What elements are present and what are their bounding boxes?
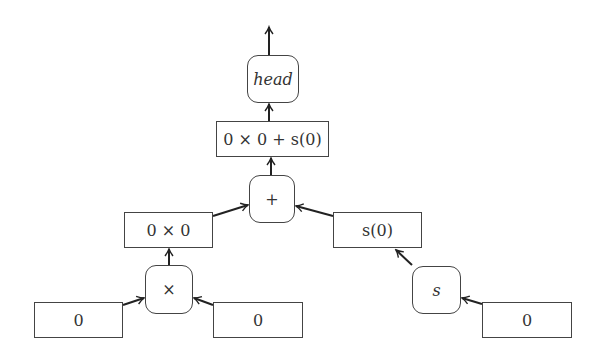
edge-prod-plus: [213, 205, 248, 216]
edge-s-succ: [396, 250, 412, 265]
node-zero-right: 0: [482, 302, 572, 338]
node-plus-label: +: [265, 190, 278, 209]
node-zero-middle-label: 0: [253, 311, 263, 330]
node-head: head: [247, 55, 299, 103]
node-zero-middle: 0: [213, 302, 303, 338]
node-product-expression: 0 × 0: [124, 212, 213, 248]
node-s-label: s: [432, 281, 440, 300]
node-successor-expression: s(0): [333, 212, 422, 248]
node-zero-left-label: 0: [73, 311, 83, 330]
node-zero-right-label: 0: [522, 311, 532, 330]
edge-zeroright-s: [462, 298, 482, 304]
node-head-label: head: [253, 70, 293, 89]
edge-zeromid-times: [194, 298, 213, 305]
node-successor-expression-label: s(0): [362, 221, 393, 240]
node-times-label: ×: [162, 280, 175, 299]
node-s-operator: s: [412, 266, 461, 314]
node-sum-expression: 0 × 0 + s(0): [216, 121, 329, 157]
edges-layer: [0, 0, 598, 354]
node-zero-left: 0: [34, 302, 123, 338]
node-product-expression-label: 0 × 0: [147, 221, 191, 240]
edge-zeroleft-times: [123, 298, 144, 305]
node-plus-operator: +: [249, 175, 295, 223]
node-times-operator: ×: [145, 265, 193, 314]
edge-succ-plus: [296, 206, 333, 216]
node-sum-expression-label: 0 × 0 + s(0): [223, 130, 321, 149]
